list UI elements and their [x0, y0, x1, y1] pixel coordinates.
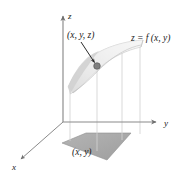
y-axis-label: y: [163, 118, 168, 128]
z-axis-label: z: [67, 11, 72, 21]
point-coordinate-label: (x, y, z): [67, 30, 94, 41]
figure-canvas: (x, y, z) z = f (x, y) (x, y) z y x: [0, 0, 190, 176]
x-axis-line: [21, 122, 63, 159]
surface-group: [68, 40, 143, 94]
surface-point-marker: [94, 63, 101, 70]
base-coordinate-label: (x, y): [72, 147, 92, 158]
x-axis-label: x: [11, 162, 16, 172]
figure-container: (x, y, z) z = f (x, y) (x, y) z y x: [0, 0, 190, 176]
surface-equation-label: z = f (x, y): [130, 33, 170, 44]
